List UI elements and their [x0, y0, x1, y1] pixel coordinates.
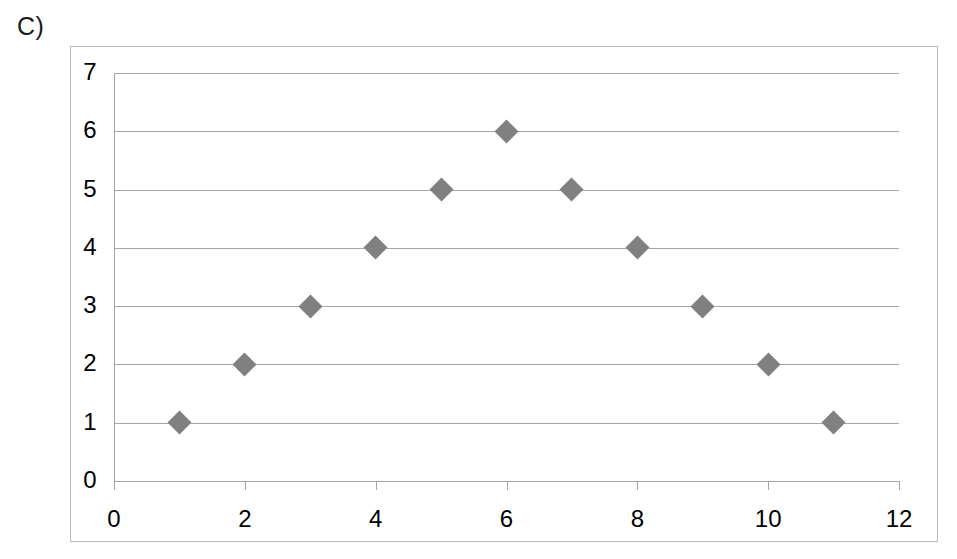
data-point[interactable] [233, 352, 257, 376]
y-tick-label-3: 3 [73, 293, 107, 317]
data-point[interactable] [167, 411, 191, 435]
x-tick-label-6: 6 [485, 507, 529, 531]
y-axis-tick-labels: 01234567 [71, 73, 107, 481]
x-tick-label-4: 4 [354, 507, 398, 531]
y-tick-label-0: 0 [73, 468, 107, 492]
chart-frame: 01234567 024681012 [70, 46, 938, 542]
data-point[interactable] [494, 119, 518, 143]
data-point[interactable] [560, 178, 584, 202]
gridline-y-7 [114, 73, 899, 74]
x-tick-label-0: 0 [92, 507, 136, 531]
x-tick-label-8: 8 [615, 507, 659, 531]
y-tick-label-6: 6 [73, 118, 107, 142]
y-tick-label-7: 7 [73, 60, 107, 84]
gridline-y-3 [114, 306, 899, 307]
x-tick-label-2: 2 [223, 507, 267, 531]
data-point[interactable] [822, 411, 846, 435]
x-tick-2 [245, 481, 246, 490]
x-tick-4 [376, 481, 377, 490]
x-tick-12 [899, 481, 900, 490]
x-tick-label-12: 12 [877, 507, 921, 531]
x-tick-6 [507, 481, 508, 490]
gridline-y-5 [114, 190, 899, 191]
data-point[interactable] [364, 236, 388, 260]
x-tick-0 [114, 481, 115, 490]
gridline-y-4 [114, 248, 899, 249]
y-tick-label-2: 2 [73, 351, 107, 375]
panel-label: C) [17, 14, 44, 39]
gridline-y-1 [114, 423, 899, 424]
x-tick-10 [768, 481, 769, 490]
data-point[interactable] [625, 236, 649, 260]
data-point[interactable] [429, 178, 453, 202]
plot-area [114, 73, 899, 481]
y-tick-label-5: 5 [73, 177, 107, 201]
x-axis-tick-labels: 024681012 [114, 491, 899, 531]
y-tick-label-1: 1 [73, 410, 107, 434]
y-tick-label-4: 4 [73, 235, 107, 259]
x-tick-label-10: 10 [746, 507, 790, 531]
data-point[interactable] [298, 294, 322, 318]
data-point[interactable] [691, 294, 715, 318]
data-point[interactable] [756, 352, 780, 376]
y-axis-line [114, 73, 115, 481]
x-tick-8 [637, 481, 638, 490]
